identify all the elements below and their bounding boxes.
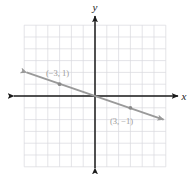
y-axis-label: y (92, 1, 98, 13)
graph-canvas: (−3, 1) (3, −1) x y (0, 0, 196, 178)
point-label-a: (−3, 1) (46, 68, 69, 78)
point-label-b: (3, −1) (110, 116, 133, 126)
coordinate-plane-figure: (−3, 1) (3, −1) x y (0, 0, 196, 178)
x-axis-label: x (181, 90, 187, 102)
data-point-marker (58, 82, 62, 86)
data-point-marker (129, 106, 133, 110)
